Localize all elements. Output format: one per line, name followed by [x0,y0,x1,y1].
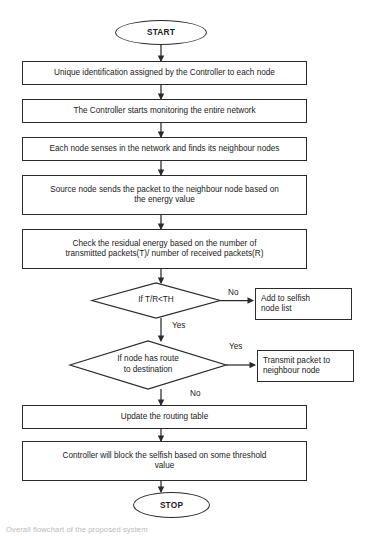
node-decision-route[interactable]: If node has route to destination [70,341,226,389]
edge-label-decision2-yes: Yes [229,342,242,351]
node-transmit-packet-label: Transmit packet to neighbour node [263,356,330,377]
node-block-selfish[interactable]: Controller will block the selfish based … [22,441,307,481]
node-source-sends-packet-label: Source node sends the packet to the neig… [50,185,279,206]
node-source-sends-packet[interactable]: Source node sends the packet to the neig… [22,175,307,215]
node-update-routing-table[interactable]: Update the routing table [22,405,307,429]
node-node-sensing-label: Each node senses in the network and find… [50,144,280,154]
node-controller-monitoring[interactable]: The Controller starts monitoring the ent… [22,99,307,123]
node-check-residual-energy[interactable]: Check the residual energy based on the n… [22,229,307,269]
decision-route-shape [70,341,226,389]
edge-label-decision2-no: No [190,389,200,398]
edge-label-decision1-yes: Yes [172,321,185,330]
node-node-sensing[interactable]: Each node senses in the network and find… [22,137,307,161]
node-transmit-packet[interactable]: Transmit packet to neighbour node [257,350,354,382]
node-stop-label: STOP [160,500,183,510]
figure-caption: Overall flowchart of the proposed system [6,525,148,534]
node-unique-identification-label: Unique identification assigned by the Co… [54,68,275,78]
node-start-label: START [147,27,175,37]
decision-threshold-shape [92,283,220,318]
node-update-routing-table-label: Update the routing table [121,412,208,422]
node-start[interactable]: START [115,20,207,45]
node-decision-threshold[interactable]: If T/R<TH [92,283,220,318]
node-controller-monitoring-label: The Controller starts monitoring the ent… [73,106,255,116]
node-stop[interactable]: STOP [133,492,210,518]
node-check-residual-energy-label: Check the residual energy based on the n… [66,239,264,260]
node-block-selfish-label: Controller will block the selfish based … [63,451,267,472]
edge-label-decision1-no: No [228,288,238,297]
node-add-to-selfish-list-label: Add to selfish node list [261,294,310,315]
node-unique-identification[interactable]: Unique identification assigned by the Co… [22,61,307,85]
node-add-to-selfish-list[interactable]: Add to selfish node list [255,288,352,320]
